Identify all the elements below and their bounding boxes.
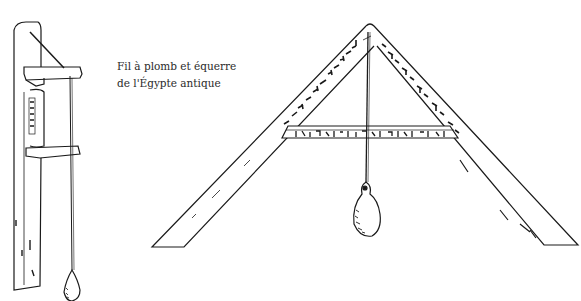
plumb-line-tool-illustration (14, 22, 82, 301)
caption-line-1: Fil à plomb et équerre (117, 58, 236, 75)
figure: Fil à plomb et équerre de l'Égypte antiq… (0, 0, 581, 301)
caption-line-2: de l'Égypte antique (117, 75, 236, 92)
illustrations (0, 0, 581, 301)
figure-caption: Fil à plomb et équerre de l'Égypte antiq… (117, 58, 236, 92)
